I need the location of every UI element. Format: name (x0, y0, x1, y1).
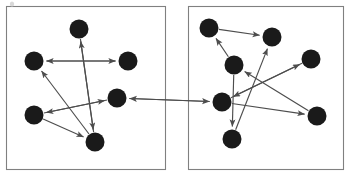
left-node-bottom (86, 133, 105, 152)
right-node-center (213, 93, 232, 112)
right-node-bottom (223, 130, 242, 149)
left-node-center (108, 89, 127, 108)
right-node-topright (263, 28, 282, 47)
left-node-west (25, 52, 44, 71)
figure-root (0, 0, 349, 176)
right-node-southeast (308, 107, 327, 126)
right-node-east (302, 50, 321, 69)
right-node-topleft (200, 19, 219, 38)
scan-artifact-speck (10, 1, 14, 6)
right-node-upmid (225, 56, 244, 75)
speck-layer (10, 1, 14, 6)
left-node-top (70, 20, 89, 39)
panels-layer (7, 7, 344, 170)
left-node-east (119, 52, 138, 71)
graph-canvas (0, 0, 349, 176)
left-node-southwest (25, 106, 44, 125)
